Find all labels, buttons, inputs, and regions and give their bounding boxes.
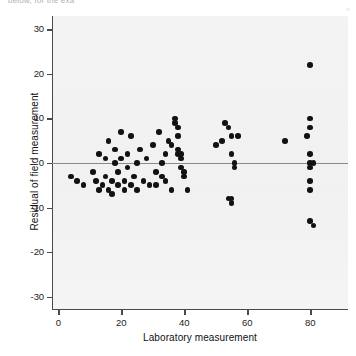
clipped-header-text: below, for the exa: [8, 0, 74, 5]
data-point: [304, 133, 310, 139]
x-tick-label-60: 60: [232, 317, 262, 328]
data-point: [90, 169, 96, 175]
data-point: [307, 62, 313, 68]
data-point: [229, 200, 235, 206]
data-point: [163, 178, 169, 184]
data-point: [122, 187, 128, 193]
y-tick-20: [47, 74, 52, 75]
y-tick--20: [47, 252, 52, 253]
data-point: [229, 151, 235, 157]
data-point: [307, 125, 313, 131]
y-tick-label--30: -30: [14, 291, 44, 302]
data-point: [307, 178, 313, 184]
data-point: [106, 138, 112, 144]
data-point: [163, 151, 169, 157]
data-point: [115, 169, 121, 175]
data-point: [122, 178, 128, 184]
data-point: [175, 133, 181, 139]
scatter-plot-figure: below, for the exa » 3020100-10-20-30 02…: [0, 0, 356, 356]
x-tick-label-80: 80: [295, 317, 325, 328]
x-axis-line: [52, 309, 348, 310]
y-tick-30: [47, 29, 52, 30]
data-point: [185, 187, 191, 193]
data-point: [235, 133, 241, 139]
data-point: [282, 138, 288, 144]
data-point: [68, 174, 74, 180]
data-point: [93, 178, 99, 184]
data-point: [213, 142, 219, 148]
data-point: [175, 125, 181, 131]
data-point: [115, 182, 121, 188]
data-point: [307, 187, 313, 193]
data-point: [169, 187, 175, 193]
y-tick--10: [47, 208, 52, 209]
data-point: [159, 174, 165, 180]
zero-reference-line: [52, 163, 348, 164]
data-point: [118, 129, 124, 135]
corner-mark: »: [346, 6, 350, 13]
y-axis-label: Residual of field measurement: [29, 52, 40, 272]
data-point: [134, 160, 140, 166]
data-point: [112, 160, 118, 166]
data-point: [153, 169, 159, 175]
y-tick-10: [47, 118, 52, 119]
data-point: [128, 133, 134, 139]
data-point: [159, 160, 165, 166]
x-tick-60: [247, 310, 248, 315]
data-point: [153, 182, 159, 188]
data-point: [128, 182, 134, 188]
x-tick-label-40: 40: [169, 317, 199, 328]
data-point: [134, 187, 140, 193]
data-point: [74, 178, 80, 184]
y-tick-label-30: 30: [14, 23, 44, 34]
data-point: [109, 191, 115, 197]
x-axis-label: Laboratory measurement: [52, 332, 348, 343]
x-tick-0: [58, 310, 59, 315]
data-point: [131, 174, 137, 180]
data-point: [219, 138, 225, 144]
x-tick-label-0: 0: [43, 317, 73, 328]
data-point: [172, 116, 178, 122]
y-tick--30: [47, 297, 52, 298]
data-point: [307, 151, 313, 157]
data-point: [150, 142, 156, 148]
data-point: [96, 151, 102, 157]
x-tick-80: [310, 310, 311, 315]
x-tick-20: [121, 310, 122, 315]
x-tick-40: [184, 310, 185, 315]
data-point: [141, 178, 147, 184]
data-point: [156, 129, 162, 135]
x-tick-label-20: 20: [106, 317, 136, 328]
data-point: [181, 174, 187, 180]
data-point: [109, 178, 115, 184]
